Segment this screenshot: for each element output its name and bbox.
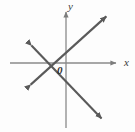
graph-canvas (0, 0, 135, 132)
origin-label: 0 (57, 65, 63, 76)
x-axis-label: x (124, 57, 129, 68)
coordinate-plane-figure: y x 0 (0, 0, 135, 132)
line-rising-segment (31, 16, 107, 84)
y-axis-label: y (68, 1, 73, 12)
line-rising (31, 16, 107, 84)
